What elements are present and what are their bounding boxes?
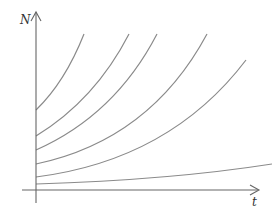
axes [22,12,259,203]
curve-4 [36,34,157,150]
x-axis-label: t [252,195,257,209]
growth-chart: N t [0,0,272,212]
curves [36,34,272,184]
curve-3 [36,34,207,164]
curve-5 [36,34,129,136]
curve-2 [36,60,246,177]
curve-1 [36,164,272,184]
curve-6 [36,34,84,110]
y-axis-label: N [19,13,31,27]
